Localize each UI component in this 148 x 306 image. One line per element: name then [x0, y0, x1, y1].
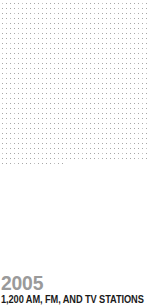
- stat-caption: 1,200 AM, FM, AND TV STATIONS: [1, 294, 144, 305]
- broadcast-tower-icon: [144, 155, 148, 160]
- pictogram-icon-grid: [0, 0, 148, 273]
- broadcast-tower-icon: [60, 160, 64, 165]
- pictogram-infographic: 2005 1,200 AM, FM, AND TV STATIONS: [0, 0, 148, 306]
- year-label: 2005: [1, 272, 43, 293]
- caption-block: 2005 1,200 AM, FM, AND TV STATIONS: [0, 272, 148, 306]
